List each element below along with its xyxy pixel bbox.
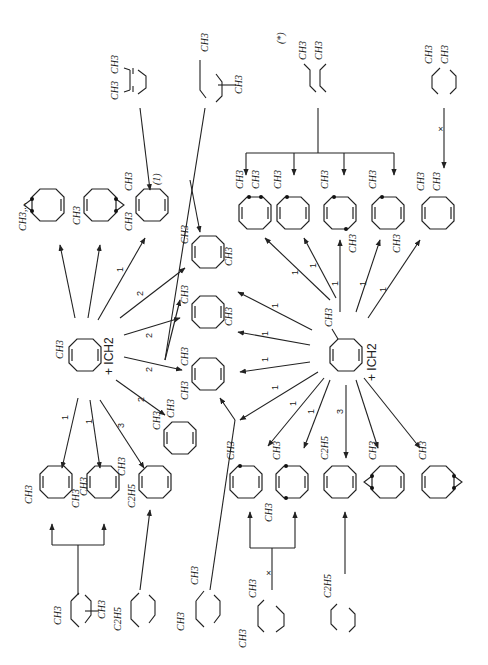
product-r2-top-3: CH3 CH3: [319, 170, 358, 253]
svg-text:CH3: CH3: [367, 170, 378, 189]
svg-text:CH3: CH3: [271, 441, 282, 460]
diene-d3: CH3 CH3 (*): [275, 32, 326, 92]
svg-text:CH3: CH3: [319, 170, 330, 189]
product-r2-top-2: CH3: [272, 170, 309, 229]
svg-text:C2H5: C2H5: [322, 574, 333, 598]
product-r1-bottom-1: CH3: [23, 466, 72, 504]
svg-text:2: 2: [144, 333, 154, 338]
svg-text:CH3: CH3: [439, 45, 450, 64]
product-r1-top-3: CH3 CH3 (1): [123, 172, 168, 231]
svg-text:1: 1: [270, 385, 280, 390]
svg-text:CH3: CH3: [313, 41, 324, 60]
label-ch3: CH3,...: [17, 202, 28, 231]
svg-text:CH3: CH3: [391, 234, 402, 253]
svg-text:CH3: CH3: [54, 340, 65, 359]
svg-text:CH3: CH3: [123, 172, 134, 191]
svg-text:1: 1: [60, 415, 70, 420]
product-r1-top-1: CH3,...: [17, 189, 64, 231]
product-r2-bottom-1: CH3: [225, 441, 262, 498]
product-r1-bottom-3: C2H5: [126, 466, 171, 508]
svg-text:CH3: CH3: [151, 411, 162, 430]
svg-text:CH3: CH3: [297, 41, 308, 60]
product-r2-bottom-4: CH3: [364, 441, 404, 498]
svg-text:CH3: CH3: [263, 503, 274, 522]
svg-text:CH3: CH3: [165, 399, 176, 418]
reagent-label: + ICH2: [102, 337, 116, 375]
reactant-r2: CH3 + ICH2: [323, 308, 379, 381]
svg-text:CH3: CH3: [175, 612, 186, 631]
svg-text:3: 3: [116, 423, 126, 428]
product-r1-top-2: CH3: [71, 189, 124, 225]
svg-text:1: 1: [270, 303, 280, 308]
svg-text:CH3: CH3: [272, 170, 283, 189]
svg-text:CH3: CH3: [415, 172, 426, 191]
svg-text:1: 1: [358, 281, 368, 286]
reaction-scheme: CH3,... CH3 CH3 CH3 (1) CH3 CH3 CH3 CH3: [0, 0, 488, 665]
svg-text:CH3: CH3: [70, 489, 81, 508]
svg-text:CH3: CH3: [247, 579, 258, 598]
svg-text:CH3: CH3: [237, 629, 248, 648]
asterisk-mark: (*): [275, 32, 287, 44]
product-mid-3: CH3 CH3: [179, 347, 224, 400]
svg-text:CH3: CH3: [179, 347, 190, 366]
product-mid-4: CH3 CH3: [151, 399, 196, 454]
reagent-label: + ICH2: [365, 343, 379, 381]
svg-text:C2H5: C2H5: [112, 607, 123, 631]
product-r2-top-1: CH3 CH3: [234, 170, 271, 229]
svg-text:CH3: CH3: [199, 33, 210, 52]
product-r2-bottom-3: C2H5: [319, 436, 356, 498]
product-r2-top-4: CH3 CH3: [367, 170, 404, 253]
diene-d8: CH3 CH3: [237, 579, 284, 648]
svg-text:1: 1: [260, 357, 270, 362]
svg-text:1: 1: [260, 331, 270, 336]
svg-text:CH3: CH3: [189, 566, 200, 585]
svg-text:1: 1: [308, 263, 318, 268]
svg-text:CH3: CH3: [109, 81, 120, 100]
svg-text:CH3: CH3: [250, 170, 261, 189]
svg-text:CH3: CH3: [423, 45, 434, 64]
svg-text:1: 1: [288, 401, 298, 406]
diene-d4: CH3 CH3: [423, 45, 456, 94]
product-mid-2: CH3 CH3: [179, 285, 234, 328]
svg-text:CH3: CH3: [116, 457, 127, 476]
branch-top-right: ×: [246, 108, 444, 175]
svg-text:CH3: CH3: [71, 206, 82, 225]
svg-text:CH3: CH3: [234, 170, 245, 189]
reactant-r1: CH3 + ICH2: [54, 337, 116, 375]
svg-text:CH3: CH3: [179, 225, 190, 244]
svg-text:1: 1: [290, 270, 300, 275]
svg-text:C2H5: C2H5: [319, 436, 330, 460]
svg-text:2: 2: [136, 397, 146, 402]
product-r2-bottom-5: CH3: [417, 441, 462, 498]
svg-text:CH3: CH3: [179, 381, 190, 400]
svg-text:CH3: CH3: [23, 485, 34, 504]
footnote-mark: (1): [151, 173, 163, 185]
svg-text:CH3: CH3: [52, 606, 63, 625]
diene-d7: CH3 CH3: [175, 566, 220, 631]
svg-text:CH3: CH3: [347, 234, 358, 253]
svg-text:CH3: CH3: [323, 308, 334, 327]
svg-text:1: 1: [330, 281, 340, 286]
svg-text:3: 3: [335, 409, 345, 414]
svg-text:2: 2: [144, 367, 154, 372]
svg-text:CH3: CH3: [417, 441, 428, 460]
svg-text:CH3: CH3: [179, 285, 190, 304]
svg-text:CH3: CH3: [225, 441, 236, 460]
svg-text:CH3: CH3: [96, 600, 107, 619]
svg-text:1: 1: [84, 419, 94, 424]
svg-text:CH3: CH3: [223, 247, 234, 266]
svg-text:2: 2: [135, 291, 145, 296]
diene-d2: CH3 CH3: [199, 33, 244, 102]
svg-text:CH3: CH3: [123, 212, 134, 231]
svg-text:CH3: CH3: [367, 441, 378, 460]
svg-text:CH3: CH3: [223, 307, 234, 326]
svg-text:CH3: CH3: [109, 55, 120, 74]
svg-text:CH3: CH3: [431, 172, 442, 191]
product-mid-1: CH3 CH3: [179, 225, 234, 268]
product-r2-top-5: CH3 CH3: [415, 172, 454, 229]
diene-d5: CH3 CH3: [52, 593, 107, 627]
blocked-mark: ×: [438, 124, 443, 134]
svg-text:C2H5: C2H5: [126, 484, 137, 508]
diene-d1: CH3 CH3: [109, 55, 146, 100]
diene-d6: C2H5: [112, 593, 155, 631]
